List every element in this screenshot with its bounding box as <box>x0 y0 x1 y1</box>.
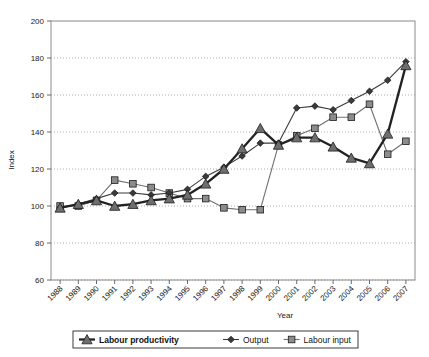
data-point-marker <box>366 101 373 108</box>
data-point-marker <box>202 195 209 202</box>
data-point-marker <box>257 206 264 213</box>
y-tick-label: 80 <box>35 239 44 248</box>
x-tick-label: 2000 <box>264 284 283 303</box>
data-point-marker <box>312 103 319 110</box>
gridlines <box>51 58 415 280</box>
series-labour-productivity <box>55 61 411 213</box>
data-point-marker <box>221 205 228 212</box>
x-tick-label: 2001 <box>282 284 301 303</box>
legend-label-2[interactable]: Labour input <box>304 335 352 345</box>
x-axis-ticks: 1988198919901991199219931994199519961997… <box>46 280 411 303</box>
chart-canvas: 6080100120140160180200 19881989199019911… <box>0 0 429 357</box>
data-point-marker <box>348 97 355 104</box>
x-axis-title: Year <box>277 311 294 320</box>
plot-frame <box>51 21 415 280</box>
y-axis-title: Index <box>7 150 16 170</box>
data-point-marker <box>148 184 155 191</box>
x-tick-label: 2007 <box>391 284 410 303</box>
y-tick-label: 200 <box>31 17 45 26</box>
y-tick-label: 180 <box>31 54 45 63</box>
data-point-marker <box>130 190 137 197</box>
data-point-marker <box>239 206 246 213</box>
data-point-marker <box>288 336 295 343</box>
data-point-marker <box>255 123 265 132</box>
y-axis-ticks: 6080100120140160180200 <box>31 17 51 285</box>
x-tick-label: 2006 <box>373 284 392 303</box>
x-tick-label: 2005 <box>355 284 374 303</box>
data-point-marker <box>293 105 300 112</box>
x-tick-label: 2003 <box>319 284 338 303</box>
data-point-marker <box>383 129 393 138</box>
x-tick-label: 1989 <box>64 284 83 303</box>
series-output <box>57 58 409 211</box>
data-point-marker <box>366 88 373 95</box>
x-tick-label: 1993 <box>137 284 156 303</box>
data-series <box>55 58 411 213</box>
data-point-marker <box>328 142 338 151</box>
data-point-marker <box>330 107 337 114</box>
data-point-marker <box>130 181 137 188</box>
series-labour-input <box>57 101 409 213</box>
y-tick-label: 160 <box>31 91 45 100</box>
x-tick-label: 1995 <box>173 284 192 303</box>
y-tick-label: 60 <box>35 276 44 285</box>
x-tick-label: 2002 <box>300 284 319 303</box>
y-tick-label: 100 <box>31 202 45 211</box>
data-point-marker <box>312 125 319 132</box>
x-tick-label: 2004 <box>337 284 356 303</box>
data-point-marker <box>111 190 118 197</box>
data-point-marker <box>403 138 410 145</box>
data-point-marker <box>330 114 337 121</box>
x-tick-label: 1991 <box>100 284 119 303</box>
data-point-marker <box>348 114 355 121</box>
x-tick-label: 1999 <box>246 284 265 303</box>
x-tick-label: 1988 <box>46 284 65 303</box>
data-point-marker <box>384 151 391 158</box>
y-tick-label: 140 <box>31 128 45 137</box>
chart-legend: Labour productivityOutputLabour input <box>73 331 358 348</box>
x-tick-label: 1994 <box>155 284 174 303</box>
legend-label-0[interactable]: Labour productivity <box>99 335 179 345</box>
x-tick-label: 1990 <box>82 284 101 303</box>
x-tick-label: 1998 <box>228 284 247 303</box>
x-tick-label: 1992 <box>118 284 137 303</box>
data-point-marker <box>111 177 118 184</box>
y-tick-label: 120 <box>31 165 45 174</box>
line-chart: 6080100120140160180200 19881989199019911… <box>0 0 429 357</box>
x-tick-label: 1996 <box>191 284 210 303</box>
x-tick-label: 1997 <box>209 284 228 303</box>
legend-label-1[interactable]: Output <box>243 335 269 345</box>
